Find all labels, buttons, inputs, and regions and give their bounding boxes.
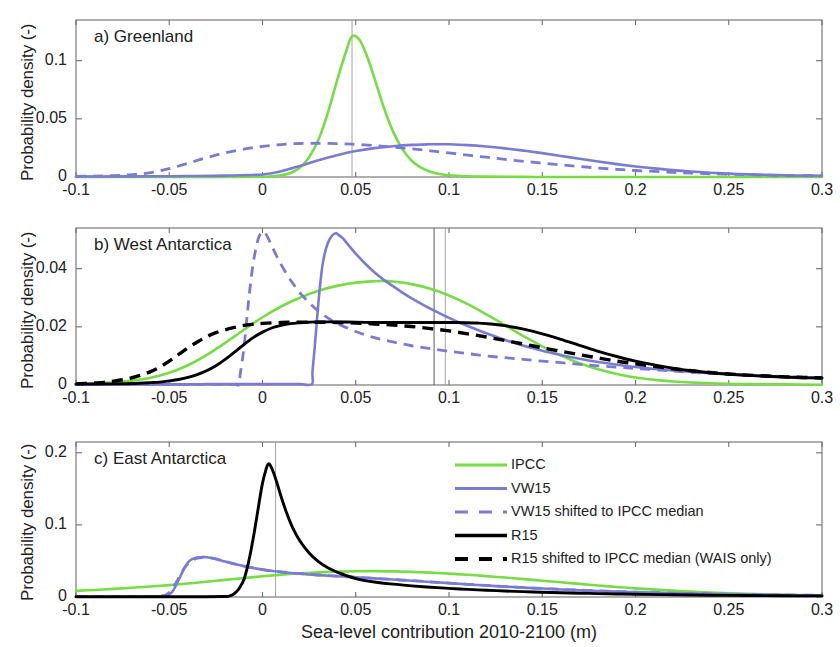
xtick-label-c-2: 0 <box>233 601 293 619</box>
xtick-label-a-5: 0.15 <box>512 181 572 199</box>
legend-item-r15-shifted-label[interactable]: R15 shifted to IPCC median (WAIS only) <box>511 550 772 566</box>
xtick-label-c-1: -0.05 <box>139 601 199 619</box>
legend-item-r15-label[interactable]: R15 <box>511 527 538 543</box>
panel-title-c: c) East Antarctica <box>94 449 226 469</box>
xtick-label-a-2: 0 <box>233 181 293 199</box>
xtick-label-b-4: 0.1 <box>419 389 479 407</box>
xtick-label-c-8: 0.3 <box>792 601 840 619</box>
xtick-label-b-2: 0 <box>233 389 293 407</box>
panel-title-a: a) Greenland <box>94 27 193 47</box>
yaxis-title-b: Probability density (-) <box>18 232 38 389</box>
curve-c-r15 <box>76 464 822 597</box>
xtick-label-b-1: -0.05 <box>139 389 199 407</box>
xtick-label-c-4: 0.1 <box>419 601 479 619</box>
curve-a-vw15 <box>76 144 822 176</box>
yaxis-title-c: Probability density (-) <box>18 444 38 601</box>
xtick-label-b-7: 0.25 <box>699 389 759 407</box>
xtick-label-b-3: 0.05 <box>326 389 386 407</box>
curve-b-vw15 <box>76 233 822 385</box>
yaxis-title-a: Probability density (-) <box>18 24 38 181</box>
legend-item-vw15-shifted-label[interactable]: VW15 shifted to IPCC median <box>511 503 704 519</box>
legend-item-ipcc-label[interactable]: IPCC <box>511 456 546 472</box>
panel-title-b: b) West Antarctica <box>94 235 232 255</box>
xtick-label-a-6: 0.2 <box>606 181 666 199</box>
xtick-label-b-6: 0.2 <box>606 389 666 407</box>
curve-a-vw15-shifted-to-ipcc-median <box>76 143 822 176</box>
xtick-label-c-6: 0.2 <box>606 601 666 619</box>
xtick-label-c-3: 0.05 <box>326 601 386 619</box>
xaxis-title: Sea-level contribution 2010-2100 (m) <box>76 622 822 643</box>
curve-a-ipcc <box>76 36 822 177</box>
xtick-label-b-8: 0.3 <box>792 389 840 407</box>
xtick-label-b-5: 0.15 <box>512 389 572 407</box>
xtick-label-a-1: -0.05 <box>139 181 199 199</box>
figure-container: -0.1-0.0500.050.10.150.20.250.300.050.1a… <box>0 0 840 647</box>
xtick-label-c-5: 0.15 <box>512 601 572 619</box>
xtick-label-a-3: 0.05 <box>326 181 386 199</box>
xtick-label-a-7: 0.25 <box>699 181 759 199</box>
xtick-label-a-4: 0.1 <box>419 181 479 199</box>
xtick-label-a-8: 0.3 <box>792 181 840 199</box>
curve-b-ipcc <box>76 281 822 385</box>
legend-item-vw15-label[interactable]: VW15 <box>511 480 551 496</box>
xtick-label-c-7: 0.25 <box>699 601 759 619</box>
